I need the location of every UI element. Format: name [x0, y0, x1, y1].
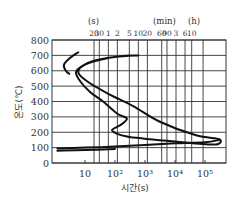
y-tick-label: 700: [31, 50, 49, 61]
y-tick-label: 800: [31, 35, 49, 46]
top-tick-label: 10: [187, 29, 197, 38]
x-tick-label: 10: [79, 168, 91, 179]
top-tick-label: 20: [143, 29, 153, 38]
y-axis-title: 온도(℃): [14, 85, 24, 118]
unit-seconds-label: (s): [88, 16, 99, 26]
x-tick-label: 10⁴: [167, 168, 183, 179]
y-tick-label: 200: [31, 127, 49, 138]
top-tick-label: 30: [95, 29, 105, 38]
top-axis-ticks: 2030125102060903610: [89, 29, 196, 38]
x-tick-label: 10⁵: [197, 168, 213, 179]
x-axis-title: 시간(s): [121, 183, 149, 193]
y-tick-label: 300: [31, 111, 49, 122]
top-tick-label: 2: [115, 29, 120, 38]
top-tick-label: 90: [162, 29, 172, 38]
unit-minutes-label: (min): [153, 16, 176, 26]
ttt-diagram: 0100200300400500600700800 1010²10³10⁴10⁵…: [0, 0, 240, 211]
curve-2: [76, 55, 221, 144]
y-tick-label: 400: [31, 96, 49, 107]
y-axis-ticks: 0100200300400500600700800: [31, 35, 49, 169]
top-tick-label: 5: [127, 29, 132, 38]
unit-hours-label: (h): [188, 16, 200, 26]
x-tick-label: 10³: [137, 168, 153, 179]
y-tick-label: 600: [31, 65, 49, 76]
top-tick-label: 1: [106, 29, 111, 38]
top-tick-label: 3: [174, 29, 179, 38]
x-tick-label: 10²: [107, 168, 123, 179]
y-tick-label: 0: [43, 158, 49, 169]
y-tick-label: 500: [31, 81, 49, 92]
y-tick-label: 100: [31, 142, 49, 153]
